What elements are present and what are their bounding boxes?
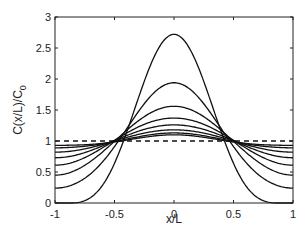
x-axis-label: x/L — [166, 212, 182, 226]
x-tick-label: 1 — [290, 208, 296, 220]
y-tick-label: 0 — [45, 197, 51, 209]
y-axis-label: C(x/L)/C0 — [11, 85, 28, 135]
x-tick-label: -0.5 — [105, 208, 124, 220]
profile-curve-8 — [55, 135, 293, 146]
axes-box — [55, 17, 293, 203]
y-tick-label: 2 — [45, 73, 51, 85]
x-tick-label: 0.5 — [226, 208, 241, 220]
profile-curves — [55, 34, 293, 203]
y-tick-label: 2.5 — [36, 42, 51, 54]
y-tick-label: 3 — [45, 11, 51, 23]
y-tick-label: 1 — [45, 135, 51, 147]
y-tick-label: 0.5 — [36, 166, 51, 178]
y-tick-label: 1.5 — [36, 104, 51, 116]
concentration-profile-chart: -1-0.500.51 00.511.522.53 x/L C(x/L)/C0 — [0, 0, 308, 244]
x-tick-label: -1 — [50, 208, 60, 220]
